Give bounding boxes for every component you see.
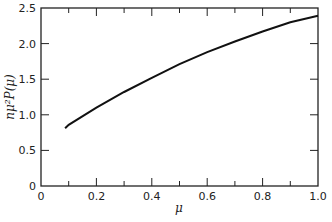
plot-frame bbox=[41, 8, 318, 186]
x-tick-label: 0.8 bbox=[254, 190, 272, 203]
chart: 00.20.40.60.81.0 00.51.01.52.02.5 μ nμ²P… bbox=[0, 0, 332, 222]
x-tick-label: 0.4 bbox=[143, 190, 161, 203]
data-line bbox=[65, 16, 318, 129]
y-tick-label: 0 bbox=[29, 180, 36, 193]
y-tick-label: 2.0 bbox=[19, 38, 37, 51]
y-tick-labels: 00.51.01.52.02.5 bbox=[19, 2, 37, 193]
x-tick-label: 1.0 bbox=[309, 190, 327, 203]
y-tick-label: 2.5 bbox=[19, 2, 37, 15]
x-tick-label: 0.6 bbox=[198, 190, 216, 203]
x-axis-label: μ bbox=[175, 201, 183, 215]
x-tick-label: 0.2 bbox=[88, 190, 106, 203]
x-tick-label: 0 bbox=[38, 190, 45, 203]
y-axis-label: nμ²P(μ) bbox=[3, 74, 17, 120]
y-tick-label: 1.5 bbox=[19, 73, 37, 86]
axis-ticks bbox=[41, 8, 318, 186]
y-tick-label: 0.5 bbox=[19, 144, 37, 157]
y-tick-label: 1.0 bbox=[19, 109, 37, 122]
